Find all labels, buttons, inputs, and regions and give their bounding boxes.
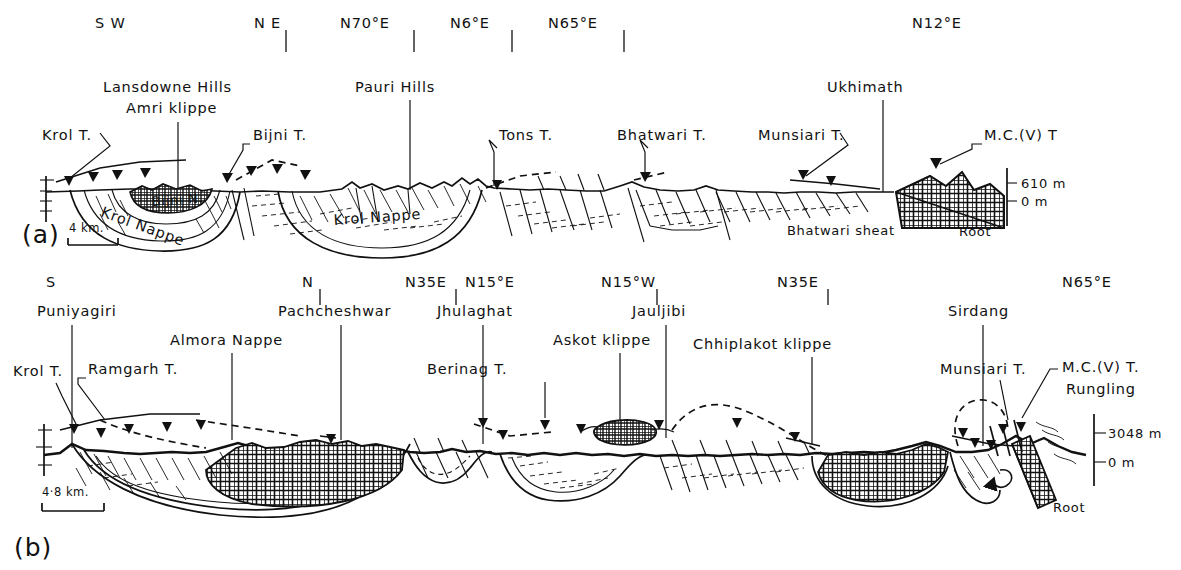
panel-a-left-axis <box>40 176 54 222</box>
bearing-label: N12°E <box>912 15 962 31</box>
elevation-label: 610 m <box>1021 176 1066 191</box>
root-label: Root <box>959 224 991 239</box>
panel-a-thrust-labels: Krol T. Bijni T. Tons T. Bhatwari T. Mun… <box>42 127 1058 186</box>
thrust-label: Bhatwari T. <box>617 127 707 143</box>
feature-label: Almora Nappe <box>170 332 283 348</box>
place-label: Puniyagiri <box>37 303 117 319</box>
thrust-leader <box>228 144 250 176</box>
place-label: Ukhimath <box>827 79 904 95</box>
feature-label: Rungling <box>1066 381 1136 397</box>
thrust-label: M.C.(V) T <box>984 127 1058 143</box>
place-label: Lansdowne Hills <box>103 79 232 95</box>
panel-b-places: Puniyagiri Pachcheshwar Jhulaghat Jaulji… <box>37 303 1009 448</box>
imbricates-b-east <box>660 440 810 492</box>
thrust-label: Krol T. <box>42 127 92 143</box>
feature-leader <box>78 378 105 420</box>
fold-traces-b-mid <box>508 456 620 488</box>
feature-label: Munsiari T. <box>940 361 1027 377</box>
bearing-label: N70°E <box>340 15 390 31</box>
rotation-arrow <box>994 470 1012 488</box>
thrust-teeth-a <box>64 158 942 190</box>
bearing-label: N E <box>254 15 281 31</box>
sirdang-fold <box>950 452 1000 503</box>
hachures-b-root <box>1036 422 1076 464</box>
place-label: Amri klippe <box>126 100 217 116</box>
feature-label: M.C.(V) T. <box>1062 359 1139 375</box>
bearing-label: N15°E <box>465 274 515 290</box>
nappe-label: Krol Nappe <box>333 206 422 228</box>
elevation-label: 0 m <box>1021 194 1048 209</box>
restored-thrust-ramgarh <box>100 420 206 448</box>
bearing-label: S W <box>95 15 126 31</box>
thrust-leader <box>489 140 497 186</box>
panel-b-bearings: S N N35E N15°E N15°W N35E N65°E <box>46 274 1112 305</box>
panel-id-a: (a) <box>22 220 60 249</box>
almora-crystalline-body <box>206 440 404 506</box>
askot-klippe-body <box>594 420 656 445</box>
thrust-label: Munsiari T. <box>758 127 845 143</box>
feature-label: Berinag T. <box>427 361 508 377</box>
panel-b-right-axis: 3048 m 0 m <box>1094 414 1162 486</box>
thrust-traces-b <box>60 414 1014 446</box>
scale-label: 4 km. <box>69 221 104 235</box>
thrust-traces-a <box>56 160 880 189</box>
elevation-label: 3048 m <box>1108 426 1162 441</box>
thrust-label: Tons T. <box>498 127 553 143</box>
feature-label: Chhiplakot klippe <box>693 336 832 352</box>
panel-b-feature-labels: Almora Nappe Askot klippe Chhiplakot kli… <box>13 332 1139 444</box>
panel-b: S N N35E N15°E N15°W N35E N65°E Puniyagi… <box>13 274 1162 562</box>
feature-label: Askot klippe <box>553 332 651 348</box>
bhatwari-fault-2 <box>716 190 730 240</box>
bearing-label: N <box>302 274 314 290</box>
panel-id-b: (b) <box>14 533 52 562</box>
fold-traces-a-1 <box>252 194 322 234</box>
root-label: Root <box>1053 500 1085 515</box>
panel-a-bearings: S W N E N70°E N6°E N65°E N12°E <box>95 15 962 52</box>
fold-traces-a-3 <box>506 202 620 228</box>
thrust-leader <box>940 144 982 164</box>
thrust-label: Bijni T. <box>253 127 307 143</box>
bearing-label: N65°E <box>548 15 598 31</box>
jauljibi-synform <box>500 454 648 501</box>
feature-label: Krol T. <box>13 363 63 379</box>
bhatwari-fault-1 <box>628 188 644 242</box>
feature-label: Ramgarh T. <box>88 361 178 377</box>
cross-section-svg: S W N E N70°E N6°E N65°E N12°E Lansdowne… <box>0 0 1181 570</box>
bhatwari-basal-line <box>650 226 718 230</box>
mct-root-wedge <box>896 172 1004 228</box>
bhatwari-sheet-strata <box>636 190 868 226</box>
bearing-label: N35E <box>405 274 447 290</box>
bearing-label: N35E <box>777 274 819 290</box>
sheet-label: Bhatwari sheat <box>787 223 895 238</box>
panel-a: S W N E N70°E N6°E N65°E N12°E Lansdowne… <box>22 15 1066 258</box>
elevation-label: 0 m <box>1108 455 1135 470</box>
scale-bar-b: 4·8 km. <box>42 485 104 511</box>
place-label: Sirdang <box>948 303 1009 319</box>
panel-a-right-axis: 610 m 0 m <box>1007 168 1066 226</box>
feature-leader <box>1022 369 1058 418</box>
restored-thrust-askot <box>672 405 828 456</box>
bearing-label: N65°E <box>1062 274 1112 290</box>
jauljibi-synform-inner <box>512 458 614 492</box>
panel-b-left-axis <box>36 424 52 476</box>
feature-leader <box>56 383 76 424</box>
place-label: Jhulaghat <box>436 303 513 319</box>
place-label: Jauljibi <box>631 303 686 319</box>
place-label: Pauri Hills <box>355 79 435 95</box>
scale-label: 4·8 km. <box>42 485 89 499</box>
fold-b-1 <box>408 452 492 483</box>
bearing-label: S <box>46 274 56 290</box>
bearing-label: N15°W <box>601 274 656 290</box>
figure-canvas: S W N E N70°E N6°E N65°E N12°E Lansdowne… <box>0 0 1181 570</box>
scale-bracket <box>42 503 104 511</box>
place-label: Pachcheshwar <box>278 303 391 319</box>
bearing-label: N6°E <box>450 15 490 31</box>
